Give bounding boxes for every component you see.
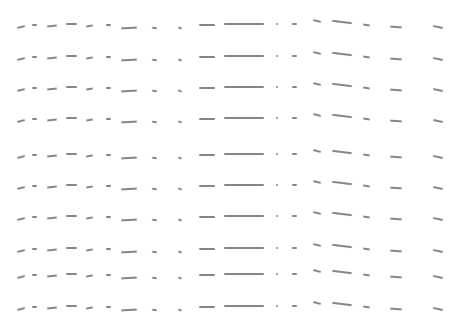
dash-stroke [276,55,278,57]
dash-stroke [363,55,370,58]
dash-stroke [390,308,402,311]
dash-stroke [17,249,25,253]
dash-stroke [313,180,321,184]
dash-stroke [390,120,402,123]
dash-stroke [292,273,297,275]
dash-stroke [363,184,370,187]
dash-stroke [390,250,402,253]
stroke-row [0,111,456,125]
dash-stroke [178,250,182,253]
dash-stroke [313,211,321,215]
dash-stroke [86,216,93,219]
dash-stroke [17,275,25,279]
dash-stroke [363,23,370,26]
dash-stroke [292,215,297,217]
dash-stroke [276,153,278,155]
dash-stroke [178,89,182,92]
dash-stroke [17,186,25,190]
dash-stroke [106,216,111,218]
dash-stroke [390,26,402,29]
dash-stroke [433,57,443,61]
dash-stroke [66,184,77,186]
dash-stroke [32,24,37,26]
dash-stroke [313,269,321,273]
dash-stroke [178,26,182,29]
dash-stroke [363,305,370,308]
dash-stroke [121,277,137,280]
dash-stroke [86,87,93,90]
dash-stroke [178,218,182,221]
dash-stroke [47,306,57,309]
stroke-row [0,299,456,313]
dash-stroke [47,24,57,27]
dash-stroke [106,24,111,26]
dash-stroke [199,24,215,26]
dash-stroke [292,184,297,186]
dash-stroke [332,302,352,306]
dash-stroke [433,275,443,279]
dash-stroke [121,27,137,30]
dash-stroke [32,274,37,276]
dash-stroke [224,305,264,307]
dash-stroke [292,305,297,307]
dash-stroke [47,56,57,59]
dash-stroke [152,277,157,279]
stroke-row [0,147,456,161]
dash-stroke [47,274,57,277]
dash-stroke [178,156,182,159]
dash-stroke [178,58,182,61]
dash-stroke [17,307,25,311]
dash-stroke [178,308,182,311]
dash-stroke [433,25,443,29]
dash-stroke [152,309,157,311]
dash-stroke [292,247,297,249]
dash-stroke [106,274,111,276]
dash-stroke [32,185,37,187]
dash-stroke [433,249,443,253]
dash-stroke [363,86,370,89]
dash-stroke [152,219,157,221]
dash-stroke [106,56,111,58]
dash-stroke [332,212,352,216]
dash-stroke [276,117,278,119]
dash-stroke [32,87,37,89]
dash-stroke [332,20,352,24]
dash-stroke [178,120,182,123]
dash-stroke [363,215,370,218]
dash-stroke [390,187,402,190]
dash-stroke [292,86,297,88]
dash-stroke [32,154,37,156]
dash-stroke [313,301,321,305]
stroke-row [0,209,456,223]
dash-stroke [66,273,77,275]
dash-stroke [224,117,264,119]
dash-stroke [47,154,57,157]
dash-stroke [199,87,215,89]
dash-stroke [292,55,297,57]
dash-stroke [47,87,57,90]
dash-stroke [332,270,352,274]
dash-stroke [224,184,264,186]
dash-stroke [433,119,443,123]
dash-stroke [32,118,37,120]
dash-stroke [276,184,278,186]
dash-stroke [106,118,111,120]
dash-stroke [66,153,77,155]
dash-stroke [86,154,93,157]
stroke-row [0,80,456,94]
dash-stroke [292,153,297,155]
dash-stroke [224,247,264,249]
dash-stroke [86,24,93,27]
dash-stroke [433,307,443,311]
dash-stroke [224,153,264,155]
dash-stroke [363,117,370,120]
dash-stroke [332,150,352,154]
dash-stroke [66,55,77,57]
dash-stroke [313,51,321,55]
dash-stroke [66,305,77,307]
dash-stroke [363,247,370,250]
dash-stroke [17,57,25,61]
dash-stroke [17,88,25,92]
dash-stroke [121,90,137,93]
dash-stroke [332,244,352,248]
